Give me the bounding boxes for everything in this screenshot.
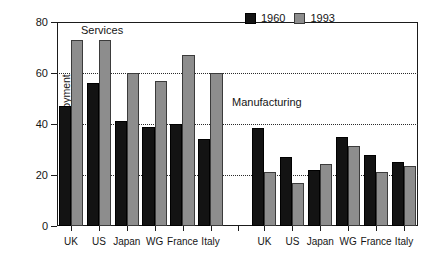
y-tick-label-60: 60 [36,67,48,79]
x-tick-label-manufacturing-japan: Japan [307,236,334,247]
x-tick-label-services-italy: Italy [201,236,219,247]
x-tick-label-services-uk: UK [64,236,78,247]
bar-services-italy-1960 [198,139,210,226]
bar-manufacturing-us-1960 [280,157,292,226]
x-tick-services-france [183,226,184,231]
bar-manufacturing-uk-1960 [252,128,264,226]
x-tick-manufacturing-italy [404,226,405,231]
bar-manufacturing-japan-1993 [320,164,332,226]
bar-manufacturing-wg-1993 [348,146,360,226]
x-tick-label-services-france: France [167,236,198,247]
x-tick-label-services-japan: Japan [113,236,140,247]
y-tick-60 [51,73,57,74]
bar-services-wg-1960 [142,127,154,226]
bar-services-japan-1993 [127,73,139,226]
legend-label-1993: 1993 [310,12,334,24]
bar-manufacturing-italy-1960 [392,162,404,226]
x-tick-services-italy [211,226,212,231]
legend-item-1960: 1960 [245,12,285,24]
bar-services-uk-1960 [59,106,71,226]
bar-services-us-1960 [87,83,99,226]
legend-label-1960: 1960 [261,12,285,24]
bar-services-us-1993 [99,40,111,226]
y-tick-0 [51,226,57,227]
gridline-60 [57,73,418,74]
bar-services-italy-1993 [210,73,222,226]
legend-swatch-1993 [294,13,305,24]
x-tick-panel-separator [238,226,239,231]
x-tick-services-us [99,226,100,231]
x-tick-label-manufacturing-italy: Italy [395,236,413,247]
bar-manufacturing-france-1960 [364,155,376,226]
y-tick-80 [51,22,57,23]
legend-swatch-1960 [245,13,256,24]
panel-label-manufacturing: Manufacturing [232,96,302,108]
legend: 1960 1993 [245,12,335,24]
y-tick-label-40: 40 [36,118,48,130]
x-tick-manufacturing-japan [320,226,321,231]
y-tick-20 [51,175,57,176]
bar-manufacturing-japan-1960 [308,170,320,226]
x-tick-label-manufacturing-france: France [361,236,392,247]
x-tick-manufacturing-uk [264,226,265,231]
x-tick-manufacturing-france [376,226,377,231]
x-tick-label-manufacturing-wg: WG [340,236,357,247]
bar-services-wg-1993 [155,81,167,226]
bar-services-france-1993 [182,55,194,226]
x-tick-label-services-wg: WG [146,236,163,247]
y-tick-40 [51,124,57,125]
x-tick-manufacturing-us [292,226,293,231]
plot-frame-top [57,22,418,23]
bar-services-france-1960 [170,124,182,226]
bar-manufacturing-italy-1993 [404,166,416,226]
legend-item-1993: 1993 [294,12,334,24]
bar-manufacturing-uk-1993 [264,172,276,226]
y-tick-label-0: 0 [42,220,48,232]
x-tick-label-manufacturing-uk: UK [258,236,272,247]
bar-services-japan-1960 [115,121,127,226]
bar-manufacturing-us-1993 [292,183,304,226]
chart-figure: % of civilian employment 020406080 UKUSJ… [0,0,435,263]
bar-manufacturing-wg-1960 [336,137,348,226]
y-tick-label-20: 20 [36,169,48,181]
gridline-40 [57,124,418,125]
plot-area: 020406080 UKUSJapanWGFranceItalyUKUSJapa… [57,22,418,226]
bar-services-uk-1993 [71,40,83,226]
y-tick-label-80: 80 [36,16,48,28]
x-tick-label-services-us: US [92,236,106,247]
panel-label-services: Services [81,24,123,36]
x-tick-manufacturing-wg [348,226,349,231]
x-tick-services-uk [71,226,72,231]
bar-manufacturing-france-1993 [376,172,388,226]
x-tick-services-wg [155,226,156,231]
x-tick-label-manufacturing-us: US [285,236,299,247]
x-tick-services-japan [127,226,128,231]
